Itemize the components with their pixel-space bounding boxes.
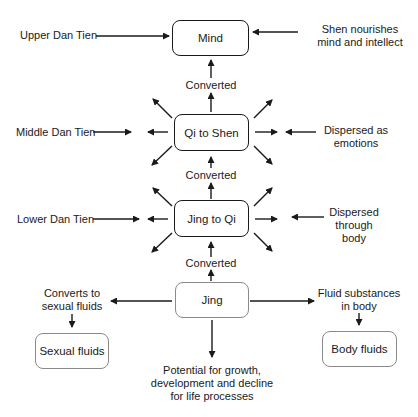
- arrow-qishen-se: [254, 146, 272, 164]
- label-upper-dan-tien: Upper Dan Tien: [20, 29, 97, 42]
- node-body-fluids-label: Body fluids: [331, 343, 387, 355]
- arrow-qishen-nw: [153, 99, 172, 118]
- label-converted-2: Converted: [180, 169, 242, 182]
- node-qi-to-shen-label: Qi to Shen: [184, 127, 238, 139]
- node-sexual-fluids-label: Sexual fluids: [39, 345, 104, 357]
- label-dispersed-emotions: Dispersed as emotions: [316, 124, 396, 150]
- arrow-jingqi-se: [254, 233, 272, 251]
- label-dispersed-body: Dispersed through body: [323, 206, 385, 245]
- diagram-canvas: Mind Qi to Shen Jing to Qi Jing Sexual f…: [0, 0, 418, 417]
- label-fluid-substances: Fluid substances in body: [314, 287, 404, 313]
- arrow-qishen-ne: [254, 100, 272, 118]
- node-jing-to-qi-label: Jing to Qi: [187, 213, 236, 225]
- arrow-jingqi-sw: [152, 233, 172, 252]
- node-mind-label: Mind: [198, 32, 223, 44]
- node-jing: Jing: [175, 282, 249, 318]
- node-jing-label: Jing: [201, 294, 222, 306]
- label-potential: Potential for growth, development and de…: [147, 364, 277, 403]
- label-lower-dan-tien: Lower Dan Tien: [17, 213, 94, 226]
- label-converted-1: Converted: [180, 79, 242, 92]
- label-converts-sexual: Converts to sexual fluids: [34, 287, 110, 313]
- label-middle-dan-tien: Middle Dan Tien: [16, 126, 96, 139]
- node-body-fluids: Body fluids: [322, 331, 397, 367]
- label-shen-nourishes: Shen nourishes mind and intellect: [310, 23, 410, 49]
- node-sexual-fluids: Sexual fluids: [35, 333, 109, 369]
- arrow-jingqi-ne: [254, 188, 272, 206]
- label-converted-3: Converted: [180, 257, 242, 270]
- node-jing-to-qi: Jing to Qi: [174, 200, 249, 237]
- arrow-jingqi-nw: [153, 188, 172, 206]
- node-mind: Mind: [172, 20, 249, 56]
- node-qi-to-shen: Qi to Shen: [174, 114, 249, 151]
- arrow-qishen-sw: [152, 146, 172, 165]
